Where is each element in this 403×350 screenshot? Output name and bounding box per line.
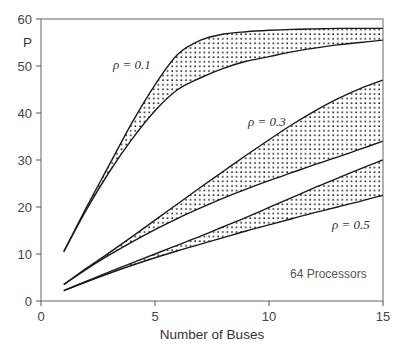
x-axis-label: Number of Buses [160, 327, 265, 342]
rho-05-label: ρ = 0.5 [331, 217, 370, 232]
y-tick-label: 60 [18, 12, 32, 27]
y-tick-label: 30 [18, 153, 32, 168]
x-tick-label: 15 [376, 309, 390, 324]
y-tick-label: 0 [25, 294, 32, 309]
x-tick-label: 0 [37, 309, 44, 324]
y-tick-label: 40 [18, 106, 32, 121]
rho-01-label: ρ = 0.1 [112, 57, 151, 72]
x-tick-label: 10 [262, 309, 276, 324]
y-axis-label: P [23, 35, 32, 50]
x-tick-label: 5 [151, 309, 158, 324]
y-tick-label: 10 [18, 247, 32, 262]
rho-03-label: ρ = 0.3 [247, 114, 286, 129]
x-axis-ticks: 051015 [37, 301, 390, 324]
processors-annotation: 64 Processors [290, 267, 367, 281]
y-tick-label: 50 [18, 59, 32, 74]
y-axis-ticks: 0102030405060 [18, 12, 41, 309]
y-tick-label: 20 [18, 200, 32, 215]
chart: 051015 0102030405060 P Number of Buses ρ… [0, 0, 403, 350]
curve-lines [64, 28, 383, 290]
